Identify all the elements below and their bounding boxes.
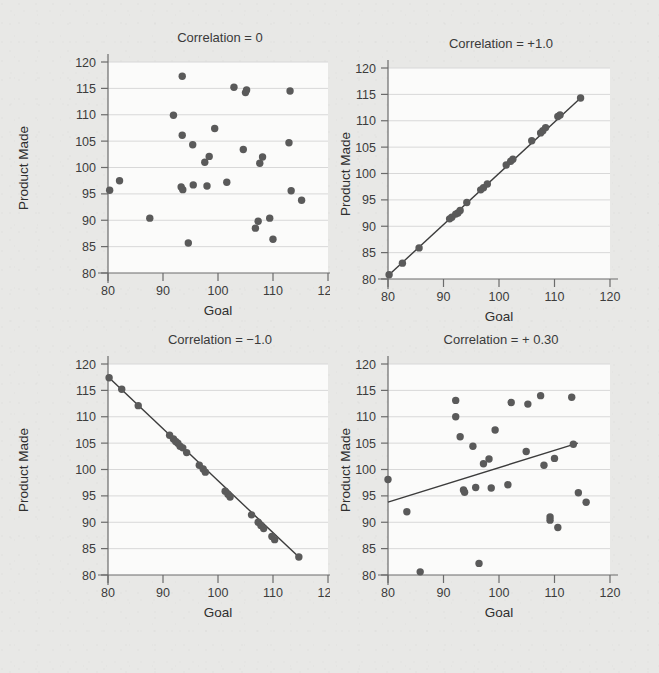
x-tick-label: 90 — [156, 586, 170, 600]
data-point — [285, 139, 292, 146]
y-tick-label: 100 — [355, 167, 376, 181]
data-point — [554, 524, 561, 531]
data-point — [491, 426, 498, 433]
data-point — [509, 156, 516, 163]
panel-bottom-left-svg: 808590951001051101151208090100110120Corr… — [0, 330, 330, 673]
data-point — [223, 179, 230, 186]
panel-top-left: 808590951001051101151208090100110120Corr… — [0, 0, 330, 330]
y-tick-label: 95 — [82, 187, 96, 201]
y-axis-title: Product Made — [338, 428, 353, 512]
y-tick-label: 120 — [355, 62, 376, 76]
x-tick-label: 120 — [600, 586, 621, 600]
panel-title: Correlation = + 0.30 — [444, 332, 559, 347]
data-point — [456, 207, 463, 214]
panel-title: Correlation = −1.0 — [168, 332, 272, 347]
data-point — [524, 400, 531, 407]
panel-title: Correlation = +1.0 — [449, 36, 553, 51]
y-tick-label: 100 — [75, 463, 96, 477]
data-point — [403, 508, 410, 515]
y-axis-ticks: 80859095100105110115120 — [355, 62, 388, 287]
y-tick-label: 120 — [355, 358, 376, 372]
data-point — [568, 394, 575, 401]
data-point — [189, 141, 196, 148]
data-point — [537, 392, 544, 399]
data-point — [570, 440, 577, 447]
data-point — [475, 560, 482, 567]
x-tick-label: 90 — [437, 586, 451, 600]
data-point — [248, 511, 255, 518]
panel-top-right-svg: 808590951001051101151208090100110120Corr… — [330, 0, 659, 330]
x-axis-ticks: 8090100110120 — [101, 273, 330, 298]
y-tick-label: 90 — [82, 516, 96, 530]
y-tick-label: 115 — [76, 82, 96, 96]
data-point — [504, 481, 511, 488]
data-point — [135, 402, 142, 409]
y-tick-label: 95 — [362, 489, 376, 503]
data-point — [463, 199, 470, 206]
data-point — [190, 181, 197, 188]
panel-top-right: 808590951001051101151208090100110120Corr… — [330, 0, 659, 330]
data-point — [185, 239, 192, 246]
x-tick-label: 100 — [489, 290, 510, 304]
y-tick-label: 85 — [82, 542, 96, 556]
data-point — [556, 111, 563, 118]
data-point — [252, 224, 259, 231]
y-tick-label: 115 — [356, 88, 376, 102]
data-point — [385, 271, 392, 278]
data-point — [582, 499, 589, 506]
data-point — [485, 455, 492, 462]
data-point — [542, 124, 549, 131]
data-point — [399, 259, 406, 266]
y-tick-label: 110 — [76, 410, 96, 424]
x-tick-label: 80 — [381, 586, 395, 600]
panel-bottom-left: 808590951001051101151208090100110120Corr… — [0, 330, 330, 673]
data-point — [575, 489, 582, 496]
data-point — [118, 386, 125, 393]
x-axis-ticks: 8090100110120 — [381, 279, 620, 304]
data-point — [105, 374, 112, 381]
y-tick-label: 115 — [76, 384, 96, 398]
data-point — [269, 236, 276, 243]
data-point — [298, 197, 305, 204]
y-axis-title: Product Made — [16, 428, 31, 512]
y-tick-label: 115 — [356, 384, 376, 398]
data-point — [577, 94, 584, 101]
panel-top-left-svg: 808590951001051101151208090100110120Corr… — [0, 0, 330, 330]
data-point — [260, 525, 267, 532]
y-axis-title: Product Made — [338, 132, 353, 216]
y-tick-label: 90 — [362, 516, 376, 530]
data-point — [416, 568, 423, 575]
x-tick-label: 80 — [101, 586, 115, 600]
data-point — [286, 87, 293, 94]
data-point — [287, 187, 294, 194]
data-point — [508, 399, 515, 406]
data-point — [179, 73, 186, 80]
y-tick-label: 110 — [76, 108, 96, 122]
data-point — [240, 146, 247, 153]
y-axis-title: Product Made — [16, 126, 31, 210]
y-tick-label: 105 — [355, 141, 376, 155]
data-point — [528, 137, 535, 144]
data-point — [522, 448, 529, 455]
y-tick-label: 105 — [355, 437, 376, 451]
y-tick-label: 85 — [362, 542, 376, 556]
x-tick-label: 80 — [101, 284, 115, 298]
y-tick-label: 95 — [82, 489, 96, 503]
x-tick-label: 110 — [545, 586, 565, 600]
y-tick-label: 80 — [362, 273, 376, 287]
x-axis-title: Goal — [485, 309, 514, 324]
data-point — [551, 455, 558, 462]
data-point — [488, 484, 495, 491]
data-point — [295, 553, 302, 560]
data-point — [484, 180, 491, 187]
y-tick-label: 110 — [356, 114, 376, 128]
panel-title: Correlation = 0 — [177, 30, 263, 45]
y-tick-label: 105 — [75, 135, 96, 149]
x-tick-label: 80 — [381, 290, 395, 304]
x-tick-label: 110 — [545, 290, 565, 304]
y-tick-label: 90 — [82, 214, 96, 228]
x-tick-label: 90 — [437, 290, 451, 304]
data-point — [243, 86, 250, 93]
data-point — [415, 244, 422, 251]
data-point — [146, 214, 153, 221]
